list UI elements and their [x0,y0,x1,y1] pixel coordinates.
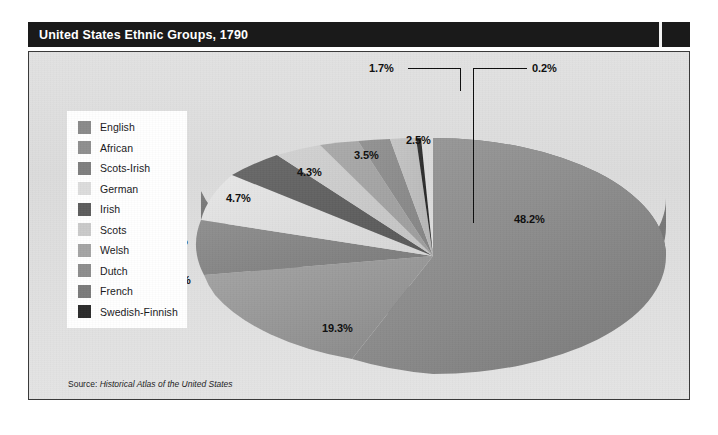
leader-line-french-horizontal [408,68,461,69]
leader-line-swedish-vertical [473,68,474,223]
pct-label-irish: 4.7% [226,192,251,204]
source-note: Source: Historical Atlas of the United S… [68,379,233,389]
legend-swatch-african [78,141,91,154]
leader-line-french-vertical [460,68,461,91]
legend-swatch-swedish-finnish [78,305,91,318]
pct-label-welsh: 3.5% [354,149,379,161]
legend-item-scots-irish[interactable]: Scots-Irish [67,158,187,179]
title-bar-divider [659,22,662,47]
pct-label-swedish-finnish: 0.2% [532,62,557,74]
legend-item-french[interactable]: French [67,281,187,302]
legend-swatch-english [78,121,91,134]
legend-label-irish: Irish [100,203,120,215]
legend-swatch-irish [78,203,91,216]
pct-label-french: 1.7% [369,62,394,74]
source-title: Historical Atlas of the United States [100,379,233,389]
legend-label-german: German [100,183,138,195]
legend-swatch-german [78,182,91,195]
figure-root: United States Ethnic Groups, 1790 [0,0,718,435]
pct-label-scots: 4.3% [297,166,322,178]
legend-item-swedish-finnish[interactable]: Swedish-Finnish [67,302,187,323]
chart-title-bar: United States Ethnic Groups, 1790 [28,22,690,47]
legend-swatch-french [78,285,91,298]
legend-label-french: French [100,285,133,297]
pct-label-english: 48.2% [514,213,545,225]
pct-label-dutch: 2.5% [406,134,431,146]
pct-label-african: 19.3% [322,322,353,334]
legend-label-scots: Scots [100,224,127,236]
legend-swatch-dutch [78,264,91,277]
legend-item-german[interactable]: German [67,179,187,200]
legend-label-welsh: Welsh [100,244,129,256]
legend-label-swedish-finnish: Swedish-Finnish [100,306,178,318]
legend-label-dutch: Dutch [100,265,128,277]
legend-swatch-welsh [78,244,91,257]
legend-swatch-scots-irish [78,162,91,175]
chart-panel: 48.2% 19.3% 8.5% 7.2% 4.7% 4.3% 3.5% 2.5… [28,51,690,400]
page-title: United States Ethnic Groups, 1790 [28,28,248,42]
legend-item-scots[interactable]: Scots [67,220,187,241]
legend-label-african: African [100,142,133,154]
leader-line-swedish-horizontal [473,68,527,69]
legend-item-dutch[interactable]: Dutch [67,261,187,282]
legend-item-welsh[interactable]: Welsh [67,240,187,261]
legend-item-african[interactable]: African [67,138,187,159]
chart-legend: English African Scots-Irish German Irish [67,111,187,328]
source-prefix: Source: [68,379,97,389]
legend-swatch-scots [78,223,91,236]
legend-item-irish[interactable]: Irish [67,199,187,220]
legend-label-english: English [100,121,135,133]
legend-item-english[interactable]: English [67,117,187,138]
legend-label-scots-irish: Scots-Irish [100,162,150,174]
